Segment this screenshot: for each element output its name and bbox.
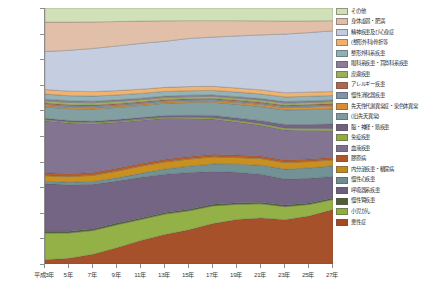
legend-swatch-icon bbox=[336, 61, 348, 68]
legend-item-label: 悪性症 bbox=[351, 220, 365, 225]
legend-item-label: (旧.先天異常) bbox=[351, 114, 379, 119]
legend-item[interactable]: 眼科系疾患・耳鼻科系疾患 bbox=[336, 59, 440, 70]
area-series-svg bbox=[45, 8, 333, 264]
x-axis-tick-label: 平成3年 bbox=[34, 270, 54, 279]
x-axis-tick-mark bbox=[92, 264, 93, 268]
legend-item[interactable]: 内分泌疾患・糖尿病 bbox=[336, 164, 440, 175]
legend-swatch-icon bbox=[336, 18, 348, 25]
legend-item-label: 小児がん bbox=[351, 209, 370, 214]
legend-swatch-icon bbox=[336, 198, 348, 205]
plot-area bbox=[44, 8, 332, 264]
x-axis-tick-label: 23年 bbox=[278, 270, 290, 279]
legend-item[interactable]: 呼吸器系疾患 bbox=[336, 185, 440, 196]
legend-swatch-icon bbox=[336, 39, 348, 46]
legend-item[interactable]: 膠原病 bbox=[336, 154, 440, 165]
legend-item[interactable]: 免疫疾患 bbox=[336, 133, 440, 144]
legend-item-label: 慢性腎疾患 bbox=[351, 198, 375, 203]
x-axis-tick-label: 5年 bbox=[64, 270, 73, 279]
x-axis-tick-mark bbox=[140, 264, 141, 268]
legend-item[interactable]: 悪性症 bbox=[336, 217, 440, 228]
legend-item-label: 内分泌疾患・糖尿病 bbox=[351, 167, 394, 172]
legend-item-label: 皮膚疾患 bbox=[351, 72, 370, 77]
legend-swatch-icon bbox=[336, 124, 348, 131]
legend-item[interactable]: 先天性代謝異常症・染色体異常 bbox=[336, 101, 440, 112]
legend-item-label: 脳・神経・筋疾患 bbox=[351, 125, 389, 130]
x-axis-tick-mark bbox=[44, 264, 45, 268]
legend-swatch-icon bbox=[336, 219, 348, 226]
x-axis-tick-label: 11年 bbox=[134, 270, 146, 279]
legend-item-label: (整形外科)骨折等 bbox=[351, 40, 387, 45]
legend-item[interactable]: 慢性心疾患 bbox=[336, 175, 440, 186]
x-axis-tick-mark bbox=[188, 264, 189, 268]
legend-item[interactable]: 慢性消化器疾患 bbox=[336, 90, 440, 101]
x-axis-tick-label: 7年 bbox=[88, 270, 97, 279]
legend-swatch-icon bbox=[336, 82, 348, 89]
legend-swatch-icon bbox=[336, 166, 348, 173]
legend-item-label: 眼科系疾患・耳鼻科系疾患 bbox=[351, 61, 408, 66]
legend-swatch-icon bbox=[336, 103, 348, 110]
legend-item-label: 精神疾患及び心身症 bbox=[351, 30, 394, 35]
legend-swatch-icon bbox=[336, 92, 348, 99]
legend-swatch-icon bbox=[336, 50, 348, 57]
legend-item[interactable]: 精神疾患及び心身症 bbox=[336, 27, 440, 38]
legend-item-label: 膠原病 bbox=[351, 156, 365, 161]
legend-item[interactable]: 血液疾患 bbox=[336, 143, 440, 154]
legend-item-label: 免疫疾患 bbox=[351, 135, 370, 140]
x-axis-tick-label: 13年 bbox=[158, 270, 170, 279]
legend-item[interactable]: 脳・神経・筋疾患 bbox=[336, 122, 440, 133]
x-axis-tick-mark bbox=[212, 264, 213, 268]
legend-item[interactable]: 皮膚疾患 bbox=[336, 69, 440, 80]
legend-swatch-icon bbox=[336, 113, 348, 120]
x-axis-tick-label: 19年 bbox=[230, 270, 242, 279]
legend-item-label: 慢性消化器疾患 bbox=[351, 93, 384, 98]
x-axis-tick-mark bbox=[284, 264, 285, 268]
legend-item-label: その他 bbox=[351, 9, 365, 14]
x-axis-tick-label: 15年 bbox=[182, 270, 194, 279]
legend-item-label: 先天性代謝異常症・染色体異常 bbox=[351, 104, 418, 109]
legend-swatch-icon bbox=[336, 208, 348, 215]
x-axis-tick-label: 9年 bbox=[112, 270, 121, 279]
legend-item-label: 身体虚弱・肥満 bbox=[351, 19, 384, 24]
legend-item-label: 呼吸器系疾患 bbox=[351, 188, 380, 193]
chart-page: 0%10%20%30%40%50%60%70%80%90%100% 平成3年5年… bbox=[0, 0, 440, 290]
legend-swatch-icon bbox=[336, 187, 348, 194]
x-axis-tick-mark bbox=[308, 264, 309, 268]
legend-item[interactable]: (整形外科)骨折等 bbox=[336, 38, 440, 49]
x-axis-tick-mark bbox=[332, 264, 333, 268]
legend-item[interactable]: 小児がん bbox=[336, 206, 440, 217]
x-axis-tick-mark bbox=[260, 264, 261, 268]
legend-swatch-icon bbox=[336, 155, 348, 162]
legend-item[interactable]: 整形外科系疾患 bbox=[336, 48, 440, 59]
legend-item-label: 慢性心疾患 bbox=[351, 177, 375, 182]
legend-item[interactable]: アレルギー疾患 bbox=[336, 80, 440, 91]
chart-legend: その他身体虚弱・肥満精神疾患及び心身症(整形外科)骨折等整形外科系疾患眼科系疾患… bbox=[336, 6, 440, 286]
legend-item[interactable]: その他 bbox=[336, 6, 440, 17]
legend-item-label: 血液疾患 bbox=[351, 146, 370, 151]
x-axis-tick-label: 21年 bbox=[254, 270, 266, 279]
legend-item-label: 整形外科系疾患 bbox=[351, 51, 384, 56]
legend-item-label: アレルギー疾患 bbox=[351, 82, 384, 87]
legend-swatch-icon bbox=[336, 71, 348, 78]
x-axis-tick-mark bbox=[236, 264, 237, 268]
legend-item[interactable]: 身体虚弱・肥満 bbox=[336, 17, 440, 28]
legend-swatch-icon bbox=[336, 177, 348, 184]
stacked-area-chart: 0%10%20%30%40%50%60%70%80%90%100% 平成3年5年… bbox=[0, 0, 336, 290]
x-axis-tick-label: 25年 bbox=[302, 270, 314, 279]
legend-swatch-icon bbox=[336, 134, 348, 141]
x-axis-tick-mark bbox=[164, 264, 165, 268]
legend-swatch-icon bbox=[336, 29, 348, 36]
x-axis-tick-label: 17年 bbox=[206, 270, 218, 279]
legend-swatch-icon bbox=[336, 8, 348, 15]
legend-item[interactable]: (旧.先天異常) bbox=[336, 111, 440, 122]
x-axis-tick-mark bbox=[68, 264, 69, 268]
x-axis-tick-mark bbox=[116, 264, 117, 268]
legend-swatch-icon bbox=[336, 145, 348, 152]
legend-item[interactable]: 慢性腎疾患 bbox=[336, 196, 440, 207]
